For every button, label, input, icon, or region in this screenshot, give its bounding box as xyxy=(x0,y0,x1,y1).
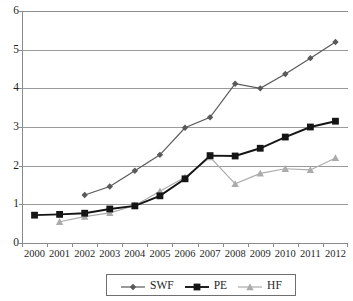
legend: SWFPEHF xyxy=(106,274,296,296)
y-tick-label-1: 1 xyxy=(3,198,19,210)
y-tick-label-2: 2 xyxy=(3,160,19,172)
x-tick-label-2003: 2003 xyxy=(97,248,122,259)
x-tick-label-2008: 2008 xyxy=(223,248,248,259)
data-point-pe-2 xyxy=(81,210,88,217)
series-pe xyxy=(31,118,339,219)
legend-entry-swf[interactable]: SWF xyxy=(120,279,174,291)
x-tick-label-2010: 2010 xyxy=(273,248,298,259)
y-axis: 0123456 xyxy=(0,0,19,301)
data-point-pe-10 xyxy=(282,134,289,141)
legend-label-hf: HF xyxy=(267,279,282,291)
plot-area xyxy=(22,11,348,243)
x-tick-label-2004: 2004 xyxy=(122,248,147,259)
series-swf xyxy=(81,39,338,199)
x-tick-mark-2001 xyxy=(47,243,48,247)
legend-entry-hf[interactable]: HF xyxy=(237,279,282,291)
data-point-pe-0 xyxy=(31,212,38,219)
x-tick-label-2006: 2006 xyxy=(172,248,197,259)
data-point-pe-7 xyxy=(207,152,214,159)
x-tick-mark-2012 xyxy=(323,243,324,247)
series-line-pe xyxy=(35,121,336,215)
x-tick-label-2001: 2001 xyxy=(47,248,72,259)
y-tick-label-0: 0 xyxy=(3,237,19,249)
data-point-pe-6 xyxy=(182,175,189,182)
series-layer xyxy=(22,11,348,243)
line-chart: 0123456 20002001200220032004200520062007… xyxy=(0,0,353,301)
x-tick-mark-2008 xyxy=(223,243,224,247)
data-point-swf-7 xyxy=(257,85,263,91)
x-tick-label-2009: 2009 xyxy=(248,248,273,259)
data-point-swf-10 xyxy=(332,39,338,45)
legend-label-pe: PE xyxy=(214,279,227,291)
legend-marker-triangle-icon xyxy=(237,279,263,291)
x-tick-mark-2000 xyxy=(22,243,23,247)
legend-label-swf: SWF xyxy=(150,279,174,291)
data-point-swf-2 xyxy=(132,167,138,173)
y-tick-label-5: 5 xyxy=(3,44,19,56)
data-point-pe-8 xyxy=(232,153,239,160)
data-point-pe-12 xyxy=(332,118,339,125)
x-tick-label-2007: 2007 xyxy=(198,248,223,259)
x-tick-mark-2011 xyxy=(298,243,299,247)
x-tick-label-2002: 2002 xyxy=(72,248,97,259)
x-tick-label-2000: 2000 xyxy=(22,248,47,259)
legend-marker-diamond-icon xyxy=(120,279,146,291)
x-tick-mark-2004 xyxy=(122,243,123,247)
legend-entry-pe[interactable]: PE xyxy=(184,279,227,291)
data-point-swf-0 xyxy=(81,192,87,198)
data-point-pe-4 xyxy=(131,202,138,209)
x-tick-mark-2007 xyxy=(198,243,199,247)
data-point-hf-11 xyxy=(332,154,339,161)
x-tick-mark-2006 xyxy=(172,243,173,247)
x-axis: 2000200120022003200420052006200720082009… xyxy=(22,243,348,263)
data-point-pe-3 xyxy=(106,206,113,213)
x-tick-mark-2005 xyxy=(147,243,148,247)
x-tick-mark-2010 xyxy=(273,243,274,247)
y-tick-label-4: 4 xyxy=(3,82,19,94)
data-point-pe-9 xyxy=(257,145,264,152)
series-hf xyxy=(56,153,339,224)
data-point-pe-5 xyxy=(157,192,164,199)
x-tick-mark-end xyxy=(347,243,348,247)
data-point-swf-1 xyxy=(107,183,113,189)
y-tick-label-3: 3 xyxy=(3,121,19,133)
data-point-swf-9 xyxy=(307,55,313,61)
x-tick-label-2012: 2012 xyxy=(323,248,348,259)
y-tick-label-6: 6 xyxy=(3,5,19,17)
x-tick-mark-2002 xyxy=(72,243,73,247)
data-point-swf-8 xyxy=(282,71,288,77)
x-tick-mark-2003 xyxy=(97,243,98,247)
data-point-pe-1 xyxy=(56,211,63,218)
x-tick-label-2011: 2011 xyxy=(298,248,323,259)
x-tick-mark-2009 xyxy=(248,243,249,247)
data-point-pe-11 xyxy=(307,124,314,131)
x-tick-label-2005: 2005 xyxy=(147,248,172,259)
legend-marker-square-icon xyxy=(184,279,210,291)
